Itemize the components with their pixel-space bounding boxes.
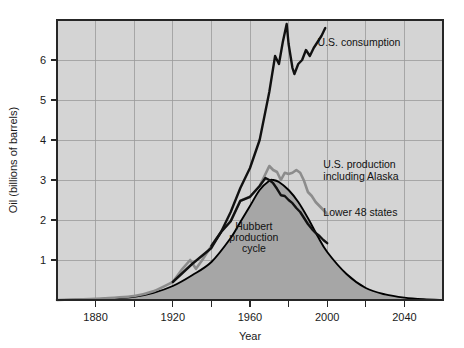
oil-production-chart: 18801920196020002040 123456 Year Oil (bi… [0,0,464,348]
y-tick-label-2: 2 [40,214,46,226]
x-tick-label-1920: 1920 [161,311,185,323]
y-tick-label-6: 6 [40,54,46,66]
annotation-production-alaska-line1: U.S. production [323,158,396,170]
y-axis-tick-labels: 123456 [40,54,46,266]
chart-figure: 18801920196020002040 123456 Year Oil (bi… [0,0,464,348]
y-tick-label-3: 3 [40,174,46,186]
x-axis-title: Year [239,330,262,342]
x-tick-label-2000: 2000 [315,311,339,323]
x-tick-label-2040: 2040 [392,311,416,323]
x-axis-tick-labels: 18801920196020002040 [83,311,416,323]
annotation-hubbert-line3: cycle [242,242,266,254]
x-tick-label-1880: 1880 [83,311,107,323]
annotation-production-alaska-line2: including Alaska [323,170,398,182]
annotation-consumption: U.S. consumption [318,36,401,48]
y-tick-label-1: 1 [40,254,46,266]
y-tick-label-4: 4 [40,134,46,146]
x-axis-ticks [96,300,405,307]
y-axis-title: Oil (billions of barrels) [7,107,19,213]
annotation-lower48: Lower 48 states [323,206,397,218]
x-tick-label-1960: 1960 [238,311,262,323]
y-tick-label-5: 5 [40,94,46,106]
